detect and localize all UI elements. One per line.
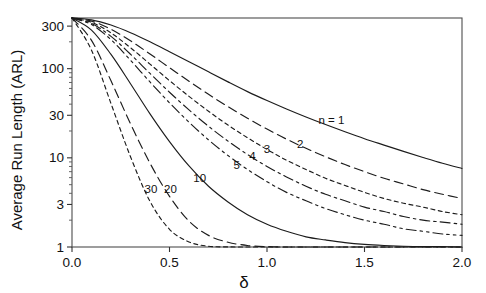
- curve-label-2: 2: [297, 138, 303, 150]
- x-tick-label-1.5: 1.5: [355, 255, 374, 270]
- curve-label-10: 10: [193, 172, 206, 184]
- chart-background: [0, 0, 486, 293]
- arl-operating-characteristic-chart: 131030100300 0.00.51.01.52.0 n = 1234510…: [0, 0, 486, 293]
- y-tick-label-300: 300: [41, 19, 64, 34]
- curve-label-4: 4: [249, 150, 256, 162]
- y-tick-label-10: 10: [49, 150, 64, 165]
- x-tick-label-2.0: 2.0: [453, 255, 472, 270]
- y-tick-label-30: 30: [49, 108, 64, 123]
- y-tick-label-1: 1: [56, 240, 64, 255]
- chart-canvas: 131030100300 0.00.51.01.52.0 n = 1234510…: [0, 0, 486, 293]
- curve-label-5: 5: [234, 159, 240, 171]
- curve-label-20: 20: [164, 183, 177, 195]
- y-tick-label-3: 3: [56, 197, 64, 212]
- x-axis-title: δ: [239, 273, 248, 292]
- curve-label-3: 3: [264, 143, 270, 155]
- y-tick-label-100: 100: [41, 61, 64, 76]
- x-tick-label-0.5: 0.5: [160, 255, 179, 270]
- x-tick-label-1.0: 1.0: [258, 255, 277, 270]
- x-tick-label-0.0: 0.0: [63, 255, 82, 270]
- curve-label-30: 30: [145, 183, 158, 195]
- y-axis-title: Average Run Length (ARL): [8, 50, 25, 231]
- curve-label-n-1: n = 1: [318, 114, 344, 126]
